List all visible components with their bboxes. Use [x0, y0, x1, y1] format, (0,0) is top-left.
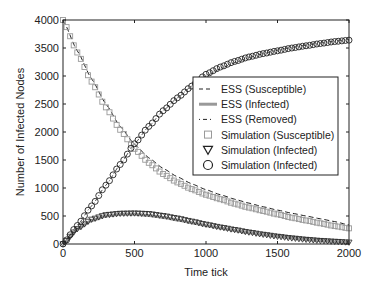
legend: ESS (Susceptible)ESS (Infected)ESS (Remo…: [193, 77, 338, 175]
y-tick-label: 1500: [35, 154, 59, 166]
y-axis-label: Number of Infected Nodes: [14, 67, 26, 196]
legend-label: Simulation (Infected): [221, 144, 317, 156]
x-tick-label: 2000: [337, 247, 361, 259]
y-tick-label: 2000: [35, 126, 59, 138]
y-tick-label: 1000: [35, 182, 59, 194]
legend-label: Simulation (Infected): [221, 159, 317, 171]
y-tick-label: 2500: [35, 98, 59, 110]
series-1: [63, 214, 349, 244]
x-tick-label: 0: [60, 247, 66, 259]
legend-label: ESS (Removed): [221, 113, 297, 125]
legend-label: Simulation (Susceptible): [221, 129, 334, 141]
x-tick-label: 1000: [194, 247, 218, 259]
legend-item: Simulation (Susceptible): [205, 129, 335, 141]
legend-item: Simulation (Infected): [204, 159, 318, 171]
legend-label: ESS (Susceptible): [221, 83, 306, 95]
y-tick-label: 500: [41, 210, 59, 222]
legend-label: ESS (Infected): [221, 98, 289, 110]
y-tick-label: 0: [53, 238, 59, 250]
legend-item: Simulation (Infected): [204, 144, 318, 156]
x-tick-label: 500: [125, 247, 143, 259]
x-tick-label: 1500: [265, 247, 289, 259]
y-tick-label: 3500: [35, 42, 59, 54]
x-axis-label: Time tick: [184, 266, 228, 278]
y-tick-label: 4000: [35, 14, 59, 26]
chart: 0500100015002000050010001500200025003000…: [0, 0, 374, 288]
y-tick-label: 3000: [35, 70, 59, 82]
